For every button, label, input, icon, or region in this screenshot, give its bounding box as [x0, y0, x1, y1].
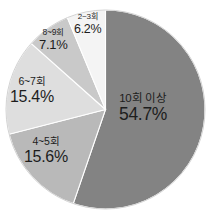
pie-chart-canvas	[0, 0, 211, 222]
pie-slice-group	[6, 10, 205, 209]
pie-chart: 10회 이상 54.7% 4~5회 15.6% 6~7회 15.4% 8~9회 …	[0, 0, 211, 222]
